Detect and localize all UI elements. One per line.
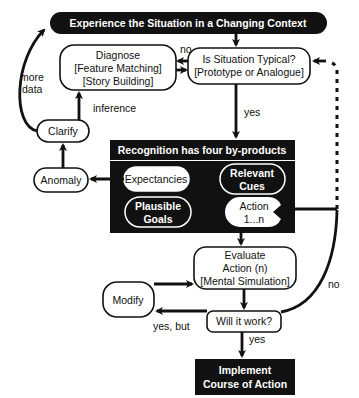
- svg-text:Goals: Goals: [143, 213, 172, 225]
- svg-text:Action (n): Action (n): [223, 262, 268, 274]
- svg-text:Expectancies: Expectancies: [125, 173, 187, 185]
- title-text: Experience the Situation in a Changing C…: [70, 17, 307, 29]
- svg-text:Course of Action: Course of Action: [203, 378, 287, 390]
- svg-text:[Prototype or Analogue]: [Prototype or Analogue]: [194, 66, 304, 78]
- svg-text:Modify: Modify: [113, 294, 145, 306]
- svg-text:[Feature Matching]: [Feature Matching]: [74, 62, 162, 74]
- modify-node: Modify: [103, 282, 154, 317]
- label-more: more: [20, 71, 44, 83]
- label-inference: inference: [93, 102, 136, 114]
- implement-node: Implement Course of Action: [195, 359, 295, 395]
- svg-text:Cues: Cues: [239, 180, 265, 192]
- svg-text:Will it work?: Will it work?: [216, 315, 272, 327]
- svg-text:Plausible: Plausible: [135, 200, 181, 212]
- svg-text:Implement: Implement: [219, 364, 272, 376]
- label-no-right: no: [328, 278, 340, 290]
- label-yes-but: yes, but: [153, 320, 190, 332]
- svg-text:Relevant: Relevant: [230, 167, 274, 179]
- svg-text:Recognition has four by-produc: Recognition has four by-products: [118, 144, 287, 156]
- label-yes-mid: yes: [244, 106, 260, 118]
- typical-node: Is Situation Typical? [Prototype or Anal…: [188, 48, 310, 84]
- svg-text:[Mental Simulation]: [Mental Simulation]: [200, 275, 289, 287]
- svg-text:1...n: 1...n: [244, 213, 265, 225]
- clarify-node: Clarify: [37, 120, 89, 142]
- svg-text:Anomaly: Anomaly: [41, 174, 83, 186]
- svg-text:Diagnose: Diagnose: [96, 49, 141, 61]
- will-it-work-node: Will it work?: [207, 311, 281, 332]
- label-data: data: [22, 83, 43, 95]
- title-banner: Experience the Situation in a Changing C…: [50, 12, 327, 34]
- svg-text:Evaluate: Evaluate: [225, 249, 266, 261]
- svg-text:Clarify: Clarify: [48, 125, 79, 137]
- label-yes-bottom: yes: [249, 333, 265, 345]
- label-no-top: no: [180, 43, 192, 55]
- svg-text:Action: Action: [239, 200, 268, 212]
- svg-text:[Story Building]: [Story Building]: [83, 75, 154, 87]
- anomaly-node: Anomaly: [34, 168, 88, 192]
- evaluate-node: Evaluate Action (n) [Mental Simulation]: [194, 247, 296, 289]
- recognition-block: Recognition has four by-products Expecta…: [110, 140, 295, 233]
- rpd-diagram: Experience the Situation in a Changing C…: [0, 0, 359, 398]
- svg-text:Is Situation Typical?: Is Situation Typical?: [202, 53, 295, 65]
- diagnose-node: Diagnose [Feature Matching] [Story Build…: [60, 45, 176, 90]
